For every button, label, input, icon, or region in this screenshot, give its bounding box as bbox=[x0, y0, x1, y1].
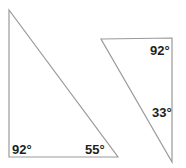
left-triangle-bottom-right-angle-label: 55° bbox=[85, 143, 105, 156]
left-triangle-bottom-left-angle-label: 92° bbox=[12, 143, 32, 156]
right-triangle-top-right-angle-label: 92° bbox=[150, 44, 170, 57]
left-triangle bbox=[9, 10, 118, 157]
right-triangle-lower-right-angle-label: 33° bbox=[152, 106, 172, 119]
geometry-figure: 92° 55° 92° 33° bbox=[0, 0, 186, 168]
